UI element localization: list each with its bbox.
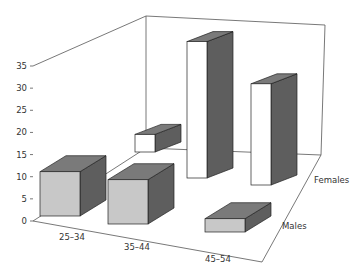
bar-males-0 bbox=[40, 156, 106, 216]
y-tick-label: 30 bbox=[16, 83, 27, 93]
bar-females-1 bbox=[187, 32, 233, 178]
y-tick-label: 25 bbox=[16, 105, 27, 115]
y-tick-label: 5 bbox=[22, 194, 27, 204]
y-tick-label: 35 bbox=[16, 61, 27, 71]
bar-females-2 bbox=[251, 74, 297, 185]
x-axis: 25–3435–4445–54 bbox=[59, 232, 231, 264]
bar-males-2 bbox=[205, 203, 271, 232]
bar-males-1 bbox=[108, 164, 174, 224]
x-tick-label: 25–34 bbox=[59, 232, 85, 242]
y-tick-label: 0 bbox=[22, 216, 27, 226]
depth-label: Males bbox=[282, 221, 307, 231]
bar-females-0 bbox=[135, 124, 181, 152]
y-tick-label: 10 bbox=[16, 172, 27, 182]
y-axis: 05101520253035 bbox=[16, 61, 33, 226]
x-tick-label: 35–44 bbox=[124, 242, 150, 252]
y-tick-label: 15 bbox=[16, 150, 27, 160]
bars bbox=[40, 32, 297, 232]
y-tick-label: 20 bbox=[16, 127, 27, 137]
chart: 05101520253035 25–3435–4445–54 MalesFema… bbox=[0, 0, 362, 276]
x-tick-label: 45–54 bbox=[205, 254, 231, 264]
depth-axis: MalesFemales bbox=[282, 175, 350, 231]
depth-label: Females bbox=[314, 175, 350, 185]
